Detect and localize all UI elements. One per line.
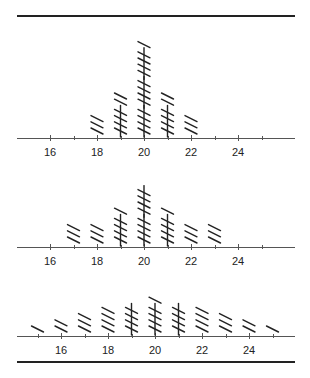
tally-marks [0, 0, 310, 378]
